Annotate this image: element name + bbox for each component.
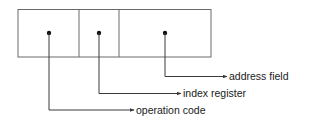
operation-code-leader	[49, 33, 134, 110]
address-field-label: address field	[229, 70, 289, 82]
operation-code-label: operation code	[136, 104, 205, 116]
index-register-label: index register	[183, 87, 246, 99]
address-field-leader	[165, 33, 227, 77]
index-register-leader	[99, 33, 181, 94]
